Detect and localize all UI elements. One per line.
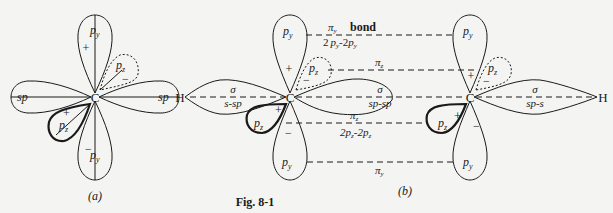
panel-a-label: (a) xyxy=(88,189,102,203)
label-sp-left: sp xyxy=(17,90,28,104)
right-c-minus-upper: − xyxy=(483,74,490,88)
label-py-bottom: py xyxy=(89,148,100,164)
orbital-diagram: C py + pz − sp sp + pz − py (a) xyxy=(0,0,613,213)
pi-y-bottom-symbol: πy xyxy=(375,164,385,178)
label-pz-lower: pz xyxy=(58,118,69,134)
left-c-minus-lower: − xyxy=(285,126,292,140)
pi-z-upper-symbol: πz xyxy=(375,56,384,70)
panel-b-label: (b) xyxy=(398,184,412,198)
bond-label: bond xyxy=(350,20,376,34)
figure-caption: Fig. 8-1 xyxy=(236,195,275,209)
pi-y-top-type: 2py-2py xyxy=(323,36,358,50)
sign-pz-upper: − xyxy=(122,72,129,86)
sign-py-top: + xyxy=(83,41,90,55)
atom-c-right: C xyxy=(466,90,475,105)
label-sp-right: sp xyxy=(158,90,169,104)
sigma-center-symbol: σ xyxy=(377,83,383,95)
sigma-right-type: sp-s xyxy=(526,97,544,109)
pi-z-lower-type: 2pz-2pz xyxy=(340,126,371,140)
right-c-pz-lower-label: pz xyxy=(437,116,448,132)
right-c-py-bottom-label: py xyxy=(462,155,473,171)
atom-c-left: C xyxy=(286,90,295,105)
atom-c: C xyxy=(91,90,100,105)
label-py-top: py xyxy=(89,23,100,39)
pi-y-top-symbol: πy xyxy=(328,21,338,35)
left-c-py-top-lobe xyxy=(273,15,307,93)
atom-h-right: H xyxy=(598,90,607,105)
sigma-right-symbol: σ xyxy=(532,83,538,95)
sigma-left-type: s-sp xyxy=(224,97,242,109)
panel-b: H C C H σ s-sp σ sp-sp σ sp-s πy bond 2p… xyxy=(175,15,607,198)
panel-a: C py + pz − sp sp + pz − py (a) xyxy=(11,15,179,203)
left-c-plus-top: + xyxy=(286,62,293,76)
pi-z-lower-symbol: πz xyxy=(350,109,359,123)
sigma-left-symbol: σ xyxy=(230,83,236,95)
right-c-py-top-label: py xyxy=(462,24,473,40)
left-c-py-top-label: py xyxy=(282,24,293,40)
left-c-py-bottom-label: py xyxy=(281,155,292,171)
sigma-center-type: sp-sp xyxy=(368,97,392,109)
left-c-plus-lower: + xyxy=(275,103,282,117)
right-c-minus-lower: − xyxy=(473,119,480,133)
left-c-minus-upper: − xyxy=(303,73,310,87)
right-c-plus-lower: + xyxy=(454,108,461,123)
atom-h-left: H xyxy=(175,90,184,105)
right-c-plus-top: + xyxy=(468,69,475,83)
left-c-pz-lower-label: pz xyxy=(253,116,264,132)
